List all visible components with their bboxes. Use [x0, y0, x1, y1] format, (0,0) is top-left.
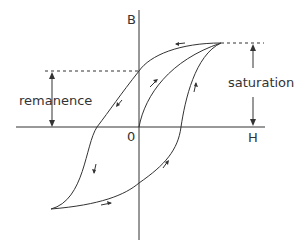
remanence-label: remanence — [19, 94, 92, 107]
saturation-label: saturation — [228, 76, 294, 89]
b-axis-label: B — [127, 13, 136, 26]
remanence-arrowhead-down — [49, 120, 55, 127]
saturation-arrowhead-up — [250, 44, 256, 51]
saturation-arrowhead-down — [250, 119, 256, 126]
hysteresis-diagram: B H 0 remanence saturation — [0, 0, 307, 252]
h-axis-label: H — [248, 131, 258, 144]
ascending-branch — [51, 43, 221, 209]
origin-label: 0 — [127, 130, 135, 143]
remanence-arrowhead-up — [49, 72, 55, 79]
arrowhead-bottom — [107, 201, 112, 205]
hysteresis-plot — [0, 0, 307, 252]
arrowhead-initial — [153, 79, 158, 83]
arrowhead-top — [175, 42, 179, 46]
arrowhead-descending-lower — [92, 169, 96, 174]
descending-branch — [51, 43, 221, 209]
arrowhead-ascending-upper — [194, 82, 198, 87]
